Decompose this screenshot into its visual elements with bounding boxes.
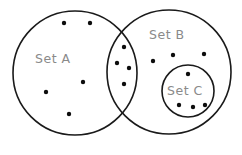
element-dot-a-only: [44, 90, 48, 94]
set-a-label: Set A: [35, 51, 71, 66]
venn-diagram: Set ASet BSet C: [0, 0, 242, 155]
element-dot-a-only: [67, 112, 71, 116]
element-dot-a-only: [81, 80, 85, 84]
set-b-label: Set B: [149, 27, 185, 42]
element-dot-a-only: [62, 21, 66, 25]
element-dot-a-and-b: [127, 66, 131, 70]
element-dot-c-subset-of-b: [191, 105, 195, 109]
element-dot-b-only: [202, 52, 206, 56]
element-dot-b-only: [151, 59, 155, 63]
element-dot-a-and-b: [122, 82, 126, 86]
element-dot-b-only: [171, 53, 175, 57]
set-a-circle: [13, 11, 137, 135]
element-dot-c-subset-of-b: [203, 103, 207, 107]
set-circles: [13, 10, 231, 135]
element-dot-c-subset-of-b: [186, 72, 190, 76]
element-dot-a-and-b: [122, 45, 126, 49]
set-c-label: Set C: [167, 83, 203, 98]
element-dot-c-subset-of-b: [177, 103, 181, 107]
element-dot-a-only: [88, 21, 92, 25]
element-dot-a-and-b: [115, 61, 119, 65]
